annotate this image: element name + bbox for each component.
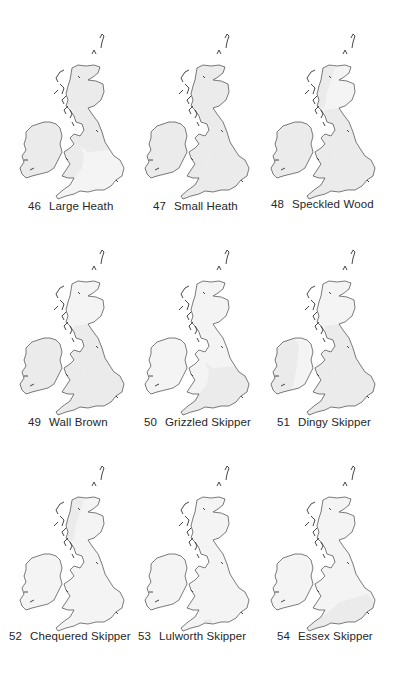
map-caption: 48Speckled Wood [271,198,374,210]
species-name: Small Heath [174,200,238,212]
species-name: Chequered Skipper [30,630,131,642]
map-cell-50: 50Grizzled Skipper [137,250,263,450]
species-name: Grizzled Skipper [165,416,251,428]
species-name: Wall Brown [49,416,108,428]
map-caption: 46Large Heath [28,200,113,212]
map-caption: 53Lulworth Skipper [138,630,246,642]
distribution-map-grid: 46Large Heath 47Small Heath 48Speckled W… [0,0,395,680]
great-britain-landmass [56,497,124,631]
map-cell-54: 54Essex Skipper [263,466,389,666]
map-cell-48: 48Speckled Wood [263,34,389,234]
species-number: 46 [28,200,41,212]
species-number: 50 [144,416,157,428]
great-britain-landmass [181,497,249,631]
species-name: Essex Skipper [298,630,373,642]
species-number: 49 [28,416,41,428]
species-number: 52 [9,630,22,642]
map-cell-51: 51Dingy Skipper [263,250,389,450]
species-number: 47 [153,200,166,212]
species-name: Dingy Skipper [298,416,371,428]
species-name: Lulworth Skipper [159,630,246,642]
map-cell-49: 49Wall Brown [12,250,138,450]
species-number: 53 [138,630,151,642]
map-cell-47: 47Small Heath [137,34,263,234]
map-caption: 52Chequered Skipper [9,630,131,642]
species-name: Large Heath [49,200,113,212]
species-number: 54 [277,630,290,642]
map-caption: 49Wall Brown [28,416,108,428]
map-caption: 47Small Heath [153,200,238,212]
map-caption: 50Grizzled Skipper [144,416,251,428]
map-caption: 54Essex Skipper [277,630,373,642]
map-cell-46: 46Large Heath [12,34,138,234]
species-number: 51 [277,416,290,428]
map-cell-53: 53Lulworth Skipper [137,466,263,666]
map-caption: 51Dingy Skipper [277,416,371,428]
map-cell-52: 52Chequered Skipper [12,466,138,666]
species-number: 48 [271,198,284,210]
species-name: Speckled Wood [292,198,374,210]
